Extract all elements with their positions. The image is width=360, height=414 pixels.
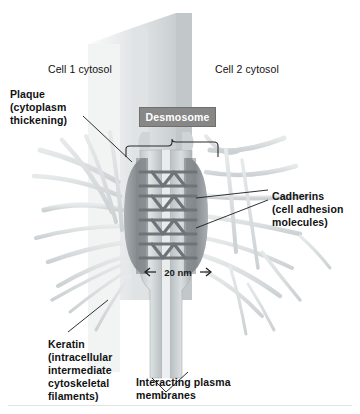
desmosome-badge: Desmosome [139, 107, 216, 127]
keratin-filaments-right [204, 136, 330, 334]
scale-bar-label: 20 nm [147, 265, 209, 279]
desmosome-badge-text: Desmosome [145, 111, 209, 123]
figure-bottom-rule [8, 405, 352, 406]
cell2-cytosol-label: Cell 2 cytosol [215, 63, 279, 76]
cell1-cytosol-label: Cell 1 cytosol [48, 63, 112, 76]
desmosome-figure: Cell 1 cytosol Cell 2 cytosol Plaque (cy… [0, 0, 360, 414]
